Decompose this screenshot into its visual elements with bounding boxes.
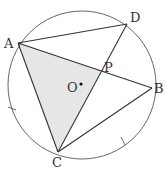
label-c: C (52, 155, 62, 170)
segment-ad (18, 24, 127, 43)
label-b: B (154, 81, 164, 96)
label-p: P (104, 60, 113, 75)
geometry-diagram: A D B C P O (0, 0, 166, 171)
label-a: A (3, 36, 14, 51)
arc-tick-cb (121, 137, 125, 145)
shaded-triangle-apc (18, 43, 101, 152)
center-point-o (79, 82, 82, 85)
label-o: O (67, 80, 78, 95)
label-d: D (130, 10, 140, 25)
